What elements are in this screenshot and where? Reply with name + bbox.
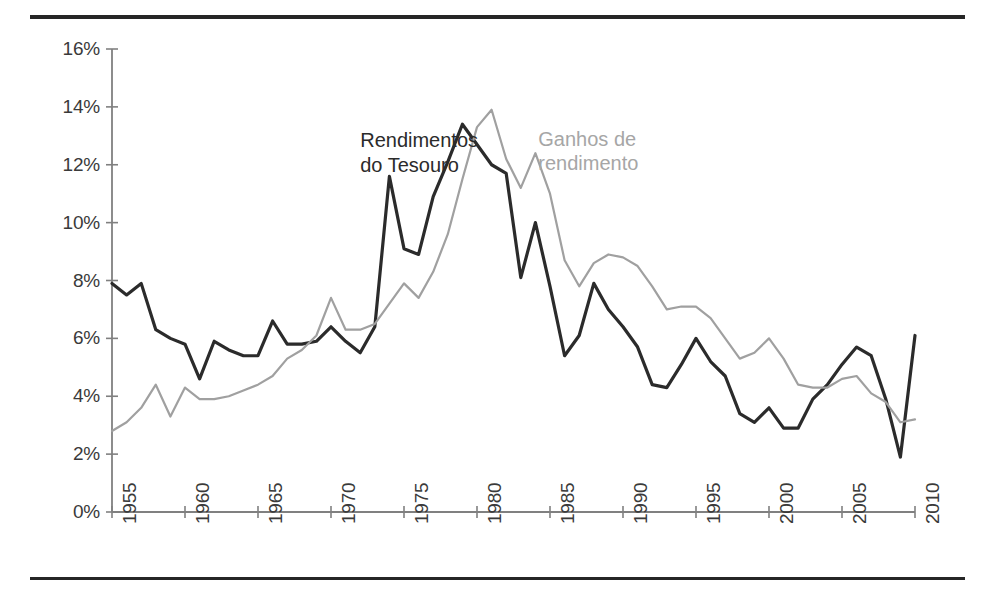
y-tick-label: 0% — [38, 502, 100, 521]
y-tick-label: 8% — [38, 271, 100, 290]
y-tick-label: 6% — [38, 328, 100, 347]
x-tick-label: 1965 — [266, 483, 285, 524]
x-tick-label: 1990 — [631, 483, 650, 524]
x-tick-label: 1970 — [339, 483, 358, 524]
x-tick-label: 1985 — [558, 483, 577, 524]
x-tick-label: 2000 — [777, 483, 796, 524]
y-tick-label: 16% — [38, 39, 100, 58]
x-tick-label: 1960 — [193, 483, 212, 524]
y-tick-label: 2% — [38, 444, 100, 463]
series-label-rendimentos-do-tesouro: Rendimentos do Tesouro — [360, 128, 478, 177]
x-tick-label: 1975 — [412, 483, 431, 524]
y-tick-label: 14% — [38, 97, 100, 116]
chart-series — [112, 110, 915, 457]
chart-figure: 0%2%4%6%8%10%12%14%16% 19551960196519701… — [0, 0, 988, 591]
x-tick-label: 2010 — [923, 483, 942, 524]
chart-axes — [106, 49, 915, 518]
x-tick-label: 2005 — [850, 483, 869, 524]
y-tick-label: 12% — [38, 155, 100, 174]
x-tick-label: 1980 — [485, 483, 504, 524]
series-line-1 — [112, 110, 915, 431]
y-tick-label: 4% — [38, 386, 100, 405]
x-tick-label: 1955 — [120, 483, 139, 524]
x-tick-label: 1995 — [704, 483, 723, 524]
series-label-ganhos-de-rendimento: Ganhos de rendimento — [538, 127, 638, 176]
y-tick-label: 10% — [38, 213, 100, 232]
